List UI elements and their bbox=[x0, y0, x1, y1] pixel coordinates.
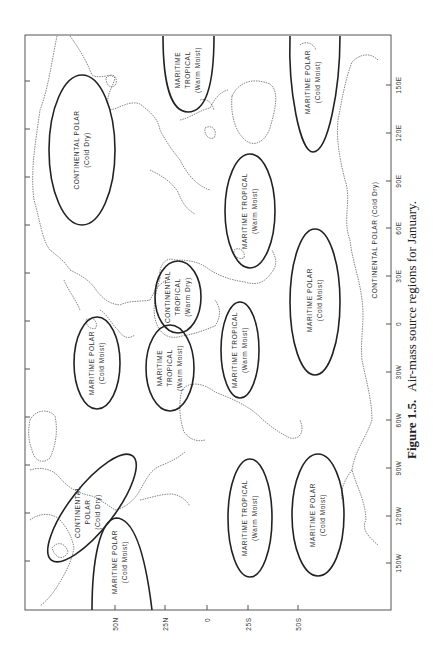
map-graphics bbox=[0, 0, 433, 653]
region-label-mp-s-pacific: MARITIME POLAR (Cold Moist) bbox=[308, 483, 328, 547]
lon-label-60w: 60W bbox=[395, 412, 402, 427]
lon-label-90w: 90W bbox=[395, 460, 402, 475]
lat-label-50n: 50N bbox=[112, 617, 119, 631]
region-label-ct-africa: CONTINENTAL TROPICAL (Warm Dry) bbox=[163, 271, 193, 323]
lon-label-0: 0 bbox=[395, 322, 402, 326]
lon-label-120w: 120W bbox=[395, 506, 402, 525]
figure-number: Figure 1.5. bbox=[404, 400, 419, 459]
region-label-mp-s-indian: MARITIME POLAR (Cold Moist) bbox=[305, 268, 325, 332]
air-mass-map: CONTINENTAL POLAR (Cold Dry) MARITIME TR… bbox=[0, 0, 433, 653]
region-label-cp-antarctica: CONTINENTAL POLAR (Cold Dry) bbox=[370, 181, 380, 298]
region-label-cp-n-america: CONTINENTAL POLAR (Cold Dry) bbox=[73, 486, 103, 538]
lat-label-0: 0 bbox=[204, 618, 211, 622]
lon-label-90e: 90E bbox=[395, 174, 402, 187]
longitude-ticks bbox=[386, 85, 391, 563]
region-label-mp-nw-pacific: MARITIME POLAR (Cold Moist) bbox=[303, 50, 323, 114]
lat-label-25s: 25S bbox=[245, 617, 252, 630]
region-label-mt-s-pacific: MARITIME TROPICAL (Warm Moist) bbox=[240, 480, 260, 556]
lon-label-150e: 150E bbox=[395, 76, 402, 94]
region-label-mt-w-pacific: MARITIME TROPICAL (Warm Moist) bbox=[173, 47, 203, 93]
region-label-cp-asia: CONTINENTAL POLAR (Cold Dry) bbox=[72, 110, 92, 189]
lon-label-30e: 30E bbox=[395, 269, 402, 282]
lon-label-150w: 150W bbox=[395, 553, 402, 572]
lat-label-50s: 50S bbox=[295, 617, 302, 630]
region-label-mt-indian: MARITIME TROPICAL (Warm Moist) bbox=[240, 173, 260, 249]
lat-label-25n: 25N bbox=[162, 617, 169, 631]
lon-label-60e: 60E bbox=[395, 221, 402, 234]
region-label-mt-s-atlantic: MARITIME TROPICAL (Warm Moist) bbox=[230, 312, 250, 388]
lon-label-120e: 120E bbox=[395, 124, 402, 142]
region-label-mp-ne-pacific: MARITIME POLAR (Cold Moist) bbox=[110, 530, 130, 594]
region-label-mt-n-atlantic: MARITIME TROPICAL (Warm Moist) bbox=[155, 345, 185, 391]
lon-label-30w: 30W bbox=[395, 364, 402, 379]
figure-caption-text: Air-mass source regions for January. bbox=[404, 201, 419, 392]
region-label-mp-n-atlantic: MARITIME POLAR (Cold Moist) bbox=[87, 331, 107, 395]
figure-caption: Figure 1.5.Air-mass source regions for J… bbox=[404, 201, 420, 459]
